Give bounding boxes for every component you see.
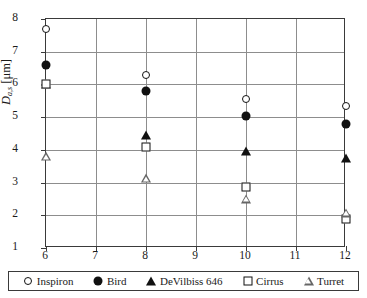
legend-label: Inspiron: [37, 275, 74, 287]
marker-triangle-fill: [146, 277, 156, 286]
y-axis-tick-label: 7: [0, 45, 18, 57]
marker-circle-open: [24, 277, 32, 285]
x-axis-tick-label: 12: [325, 250, 365, 262]
gridline-horizontal: [46, 150, 344, 151]
legend-symbol-triangle-open-icon: [303, 276, 314, 287]
data-point-devilbiss-646: [141, 131, 151, 140]
data-point-bird: [42, 60, 51, 69]
marker-triangle-open: [304, 277, 314, 286]
y-tick-mark: [41, 52, 46, 53]
gridline-horizontal: [46, 215, 344, 216]
figure: Da,s [μm] V̇g [l/min] InspironBirdDeVilb…: [0, 0, 367, 298]
gridline-vertical: [296, 19, 297, 246]
y-axis-tick-label: 8: [0, 12, 18, 24]
legend-symbol-circle-open-icon: [23, 276, 34, 287]
legend-item-inspiron: Inspiron: [23, 275, 74, 287]
data-point-inspiron: [342, 102, 350, 110]
data-point-inspiron: [42, 25, 50, 33]
data-point-cirrus: [142, 142, 151, 151]
data-point-devilbiss-646: [241, 147, 251, 156]
legend-symbol-square-open-icon: [242, 276, 253, 287]
y-axis-tick-label: 1: [0, 241, 18, 253]
plot-area: [45, 18, 345, 247]
data-point-inspiron: [142, 71, 150, 79]
gridline-vertical: [96, 19, 97, 246]
y-axis-tick-label: 4: [0, 143, 18, 155]
x-axis-tick-label: 7: [75, 250, 115, 262]
data-point-devilbiss-646: [341, 154, 351, 163]
x-axis-tick-label: 6: [25, 250, 65, 262]
data-point-cirrus: [42, 80, 51, 89]
legend-label: Turret: [317, 275, 344, 287]
legend-symbol-circle-fill-icon: [93, 276, 104, 287]
legend: InspironBirdDeVilbiss 646CirrusTurret: [8, 271, 359, 291]
gridline-vertical: [196, 19, 197, 246]
data-point-bird: [342, 119, 351, 128]
legend-symbol-triangle-fill-icon: [146, 276, 157, 287]
y-tick-mark: [41, 183, 46, 184]
y-axis-tick-label: 6: [0, 78, 18, 90]
gridline-vertical: [246, 19, 247, 246]
y-axis-tick-label: 5: [0, 110, 18, 122]
data-point-bird: [242, 112, 251, 121]
data-point-turret: [141, 174, 151, 183]
x-axis-tick-label: 8: [125, 250, 165, 262]
data-point-turret: [41, 152, 51, 161]
marker-circle-fill: [94, 277, 103, 286]
legend-item-turret: Turret: [303, 275, 344, 287]
x-axis-tick-label: 10: [225, 250, 265, 262]
gridline-horizontal: [46, 84, 344, 85]
y-tick-mark: [41, 215, 46, 216]
legend-label: Cirrus: [256, 275, 284, 287]
y-tick-mark: [41, 117, 46, 118]
legend-item-devilbiss-646: DeVilbiss 646: [146, 275, 223, 287]
data-point-cirrus: [242, 183, 251, 192]
y-axis-tick-label: 2: [0, 209, 18, 221]
gridline-horizontal: [46, 117, 344, 118]
gridline-horizontal: [46, 52, 344, 53]
data-point-bird: [142, 86, 151, 95]
legend-item-cirrus: Cirrus: [242, 275, 284, 287]
y-tick-mark: [41, 19, 46, 20]
x-axis-tick-label: 9: [175, 250, 215, 262]
legend-item-bird: Bird: [93, 275, 127, 287]
data-point-turret: [241, 194, 251, 203]
x-axis-tick-label: 11: [275, 250, 315, 262]
data-point-inspiron: [242, 95, 250, 103]
legend-label: DeVilbiss 646: [160, 275, 223, 287]
data-point-turret: [341, 208, 351, 217]
y-axis-title-symbol: D: [0, 96, 13, 105]
gridline-horizontal: [46, 183, 344, 184]
marker-square-open: [243, 277, 252, 286]
y-axis-tick-label: 3: [0, 176, 18, 188]
legend-label: Bird: [107, 275, 127, 287]
y-tick-mark: [41, 150, 46, 151]
